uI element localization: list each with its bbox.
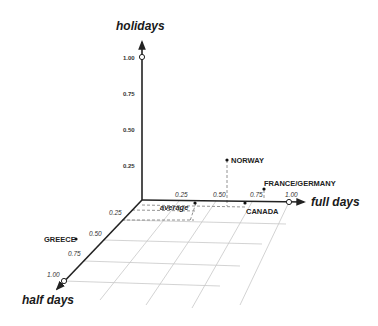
holidays-tick: 0.50 [123, 127, 135, 133]
half-days-tick: 0.25 [109, 209, 122, 216]
dashed-guides [122, 160, 264, 221]
half-days-axis-title: half days [22, 293, 74, 307]
full-days-axis-title: full days [311, 195, 360, 209]
holidays-max-marker [139, 54, 144, 59]
point-label: FRANCE/GERMANY [264, 179, 336, 188]
full-days-tick: 0.50 [213, 191, 226, 198]
floor-grid [64, 201, 289, 308]
point-label: NORWAY [231, 156, 264, 165]
data-point-france-germany: FRANCE/GERMANY [262, 179, 335, 191]
data-point-greece: GREECE [44, 235, 78, 244]
data-point-norway: NORWAY [225, 156, 264, 165]
point-label: CANADA [246, 207, 279, 216]
full-days-tick: 0.25 [175, 191, 188, 198]
full-days-tick: 1.00 [285, 191, 298, 198]
holidays-tick: 1.00 [123, 55, 135, 61]
half-days-tick: 1.00 [47, 271, 60, 278]
full-days-tick: 0.75 [250, 191, 263, 198]
full-days-axis [142, 200, 304, 202]
holidays-tick: 0.75 [123, 91, 135, 97]
full-days-max-marker [286, 199, 291, 204]
half-days-tick: 0.50 [89, 230, 102, 237]
point-label: GREECE [44, 235, 76, 244]
half-days-tick: 0.75 [68, 250, 81, 257]
holidays-tick: 0.25 [123, 163, 135, 169]
data-point-canada: CANADA [243, 201, 279, 216]
half-days-max-marker [61, 278, 66, 283]
point-label: average [160, 203, 188, 212]
3d-scatter-chart: holidays full days half days 0.25 0.50 0… [0, 0, 378, 326]
data-point-average: average [160, 201, 197, 212]
holidays-axis-title: holidays [116, 19, 165, 33]
half-days-axis [57, 200, 142, 289]
